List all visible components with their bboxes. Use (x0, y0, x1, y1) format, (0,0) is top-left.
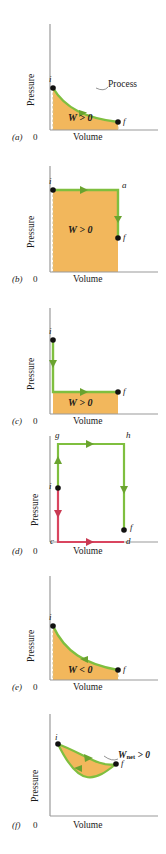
panel-e: Pressure i f W < 0 (e) 0 Volume (0, 568, 166, 710)
panel-letter-e: (e) (12, 682, 22, 692)
panel-letter-c: (c) (12, 416, 22, 426)
point-i-e (50, 623, 56, 629)
point-label-f-a: f (123, 116, 126, 126)
process-arrow-d-green-down (120, 486, 128, 494)
point-f-c (115, 389, 121, 395)
work-label-a: W > 0 (68, 112, 92, 123)
point-label-f-b: f (123, 232, 126, 242)
y-axis-label-e: Pressure (26, 630, 36, 662)
origin-label-a: 0 (33, 132, 38, 142)
point-label-g-d: g (55, 430, 60, 440)
origin-label-d: 0 (33, 546, 38, 556)
process-annotation-a: Process (108, 79, 137, 89)
point-i-f (55, 741, 61, 747)
point-f-f (113, 761, 119, 767)
process-path-d-red (58, 488, 124, 542)
work-area-a (53, 88, 118, 130)
leader-line-a (96, 87, 108, 90)
x-axis-label-f: Volume (73, 820, 102, 830)
origin-label-e: 0 (33, 682, 38, 692)
x-axis-label-e: Volume (73, 682, 102, 692)
point-label-c-d: c (50, 536, 54, 546)
point-label-i-d: i (49, 481, 52, 491)
origin-label-b: 0 (33, 274, 38, 284)
x-axis-label-a: Volume (73, 132, 102, 142)
panel-letter-f: (f) (12, 820, 21, 830)
x-axis-label-b: Volume (73, 274, 102, 284)
net-work-subscript: net (126, 753, 135, 760)
point-i-b (50, 187, 56, 193)
work-label-c: W > 0 (68, 397, 92, 408)
y-axis-label-b: Pressure (26, 216, 36, 248)
net-work-annotation-f: Wnet > 0 (118, 750, 150, 760)
point-label-a-b: a (122, 180, 127, 190)
point-label-i-e: i (49, 612, 52, 622)
pv-diagram-figure: Pressure i f W > 0 Process (a) 0 Volume … (0, 0, 166, 854)
process-arrow-d-green-right (86, 440, 94, 448)
work-label-e: W < 0 (68, 664, 92, 675)
point-f-a (115, 119, 121, 125)
panel-c: Pressure i f W > 0 (c) 0 Volume (0, 284, 166, 426)
point-i-a (50, 85, 56, 91)
x-axis-label-c: Volume (73, 416, 102, 426)
y-axis-label-f: Pressure (30, 770, 40, 802)
y-axis-label-c: Pressure (26, 358, 36, 390)
point-label-i-c: i (49, 326, 52, 336)
panel-b: Pressure i a f W > 0 (b) 0 Volume (0, 142, 166, 284)
panel-letter-a: (a) (12, 132, 23, 142)
point-i-d (55, 485, 61, 491)
origin-label-f: 0 (33, 820, 38, 830)
point-label-h-d: h (126, 430, 131, 440)
panel-a: Pressure i f W > 0 Process (a) 0 Volume (0, 0, 166, 142)
point-f-d (121, 527, 127, 533)
point-label-d-d: d (126, 536, 131, 546)
x-axis-label-d: Volume (73, 546, 102, 556)
point-label-f-e: f (123, 664, 126, 674)
work-label-b: W > 0 (68, 224, 92, 235)
process-path-d-green (58, 444, 124, 530)
point-f-b (115, 235, 121, 241)
point-label-f-c: f (123, 386, 126, 396)
process-arrow-d-red-right (86, 538, 94, 546)
leader-line-f (104, 756, 118, 760)
panel-f: Pressure i f Wnet > 0 (f) 0 Volume (0, 710, 166, 854)
point-i-c (50, 337, 56, 343)
process-arrow-d-green-up (54, 456, 62, 464)
panel-letter-d: (d) (12, 546, 23, 556)
point-f-e (115, 667, 121, 673)
point-label-i-a: i (49, 74, 52, 84)
y-axis-label-a: Pressure (26, 74, 36, 106)
point-label-i-f: i (55, 732, 58, 742)
point-label-f-d: f (130, 522, 133, 532)
point-label-i-b: i (49, 176, 52, 186)
net-work-tail: > 0 (135, 750, 150, 760)
panel-d: Pressure g h i c d f (d) 0 Volume (0, 426, 166, 568)
y-axis-label-d: Pressure (30, 494, 40, 526)
process-path-c (53, 340, 118, 392)
panel-letter-b: (b) (12, 274, 23, 284)
origin-label-c: 0 (33, 416, 38, 426)
process-arrow-d-red-down (54, 510, 62, 518)
